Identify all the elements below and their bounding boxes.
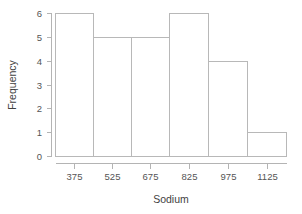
x-tick-label-675: 675 bbox=[143, 171, 159, 182]
x-tick-label-375: 375 bbox=[67, 171, 83, 182]
x-tick-label-825: 825 bbox=[182, 171, 198, 182]
x-tick-marks bbox=[75, 164, 268, 169]
y-tick-label-1: 1 bbox=[37, 127, 42, 138]
histogram-bar bbox=[132, 38, 170, 157]
y-tick-label-2: 2 bbox=[37, 103, 42, 114]
x-tick-label-525: 525 bbox=[105, 171, 121, 182]
x-axis-title: Sodium bbox=[153, 193, 189, 205]
y-tick-label-5: 5 bbox=[37, 32, 42, 43]
x-tick-label-975: 975 bbox=[221, 171, 237, 182]
histogram-chart: 0 1 2 3 4 5 6 Frequency 375 bbox=[0, 0, 302, 214]
bars-group bbox=[56, 14, 287, 157]
x-tick-label-1125: 1125 bbox=[257, 171, 277, 182]
histogram-bar bbox=[170, 14, 209, 157]
y-tick-label-0: 0 bbox=[37, 151, 42, 162]
y-axis-title: Frequency bbox=[6, 59, 18, 109]
histogram-bar bbox=[94, 38, 132, 157]
histogram-bar bbox=[209, 62, 248, 157]
y-tick-label-4: 4 bbox=[37, 56, 42, 67]
histogram-bar bbox=[248, 133, 287, 157]
y-tick-label-3: 3 bbox=[37, 80, 42, 91]
histogram-bar bbox=[56, 14, 94, 157]
y-tick-marks bbox=[47, 14, 52, 157]
y-tick-label-6: 6 bbox=[37, 8, 42, 19]
plot-area: 0 1 2 3 4 5 6 Frequency 375 bbox=[0, 0, 302, 214]
